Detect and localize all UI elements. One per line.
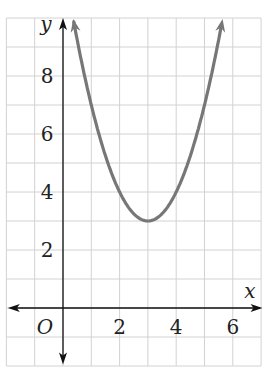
y-tick-label: 2 [41, 238, 54, 262]
x-axis-label: x [244, 279, 255, 303]
y-tick-label: 4 [41, 180, 54, 204]
y-axis-label: y [39, 12, 52, 36]
parabola-chart: xyO2462468 [0, 0, 272, 378]
x-tick-label: 2 [113, 315, 126, 339]
x-tick-label: 4 [170, 315, 183, 339]
y-tick-label: 6 [41, 122, 54, 146]
y-tick-label: 8 [41, 64, 54, 88]
parabola-curve [74, 22, 221, 221]
x-tick-label: 6 [226, 315, 239, 339]
origin-label: O [37, 315, 53, 339]
